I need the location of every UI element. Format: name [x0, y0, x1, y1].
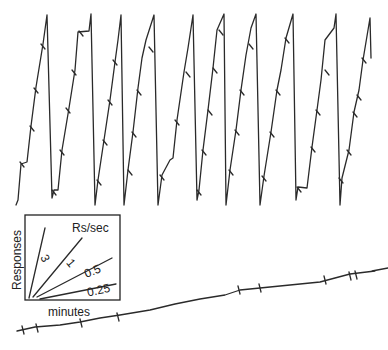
x-axis-label: minutes: [48, 305, 90, 319]
cumulative-record-figure: Rs/sec 3 1 0.5 0.25 Responses minutes: [0, 0, 388, 350]
legend-title: Rs/sec: [72, 221, 109, 235]
rate-legend: Rs/sec 3 1 0.5 0.25 Responses minutes: [10, 215, 120, 319]
lower-reinforcement-ticks: [22, 271, 357, 334]
rate-label-0.25: 0.25: [86, 281, 112, 300]
y-axis-label: Responses: [10, 230, 24, 290]
rate-label-3: 3: [37, 252, 53, 265]
upper-record: [16, 14, 371, 205]
reinforcement-ticks: [20, 30, 366, 195]
